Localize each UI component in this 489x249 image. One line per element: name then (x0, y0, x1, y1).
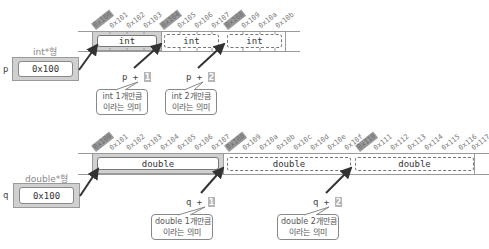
memory-ticks (110, 31, 275, 51)
callout-tails (115, 82, 329, 215)
pointer-arrows (79, 44, 351, 196)
arrows-layer (0, 0, 489, 249)
